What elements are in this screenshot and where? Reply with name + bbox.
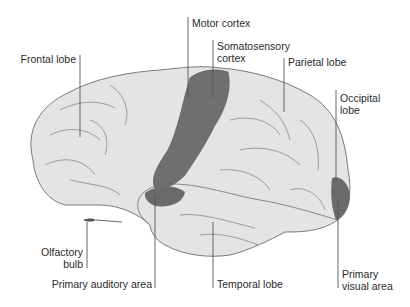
label-primary-visual-area-line1: Primary: [342, 268, 378, 280]
label-occipital-lobe-line2: lobe: [340, 104, 360, 116]
olfactory-bulb-shape: [83, 219, 96, 222]
label-olfactory-bulb-line2: bulb: [30, 258, 83, 270]
label-frontal-lobe: Frontal lobe: [18, 53, 76, 65]
label-somatosensory-cortex-line1: Somatosensory: [217, 40, 290, 52]
label-primary-auditory-area: Primary auditory area: [40, 278, 152, 290]
label-primary-visual-area-line2: visual area: [342, 280, 393, 292]
label-parietal-lobe: Parietal lobe: [288, 56, 346, 68]
label-motor-cortex: Motor cortex: [192, 17, 250, 29]
label-somatosensory-cortex-line2: cortex: [217, 52, 246, 64]
label-temporal-lobe: Temporal lobe: [217, 278, 283, 290]
label-olfactory-bulb-line1: Olfactory: [30, 246, 83, 258]
label-occipital-lobe-line1: Occipital: [340, 92, 380, 104]
